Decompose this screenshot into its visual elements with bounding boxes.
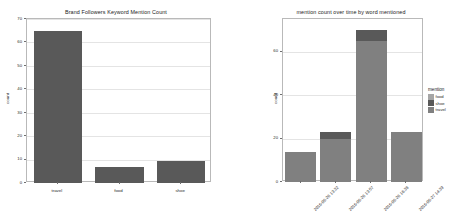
legend-entry-group: foodshoetravel xyxy=(428,94,446,113)
legend-entry[interactable]: food xyxy=(428,94,446,100)
x-axis-tick-mark xyxy=(300,181,301,183)
y-axis-tick-label: 30 xyxy=(10,110,22,115)
y-axis-tick-label: 40 xyxy=(10,86,22,91)
legend-entry-label: travel xyxy=(436,107,446,112)
y-axis-tick-label: 20 xyxy=(10,133,22,138)
bar-segment xyxy=(320,139,351,182)
y-axis-tick-label: 20 xyxy=(266,135,278,140)
gridline xyxy=(283,95,422,96)
chart-title: Brand Followers Keyword Mention Count xyxy=(16,9,216,15)
bar-segment xyxy=(320,132,351,139)
bar xyxy=(34,31,82,183)
y-axis-tick-label: 0 xyxy=(10,180,22,185)
y-axis-tick-label: 60 xyxy=(10,39,22,44)
bar-segment xyxy=(356,41,387,182)
legend-swatch-icon xyxy=(428,94,434,100)
bar xyxy=(95,167,143,183)
y-axis-tick-label: 60 xyxy=(266,48,278,53)
y-axis-tick-label: 0 xyxy=(266,179,278,184)
dashboard-root: Brand Followers Keyword Mention Count co… xyxy=(0,0,464,224)
y-axis-tick-label: 40 xyxy=(266,92,278,97)
gridline xyxy=(27,19,210,20)
plot-area xyxy=(282,18,423,181)
legend-entry[interactable]: travel xyxy=(428,107,446,113)
y-axis-tick-label: 70 xyxy=(10,16,22,21)
legend-entry-label: food xyxy=(436,94,444,99)
legend-swatch-icon xyxy=(428,107,434,113)
y-axis-tick-mark xyxy=(24,182,26,183)
bar xyxy=(157,161,205,183)
chart-panel-brand-followers: Brand Followers Keyword Mention Count co… xyxy=(0,0,226,224)
legend: mention foodshoetravel xyxy=(428,87,446,113)
y-axis-tick-mark xyxy=(280,181,282,182)
plot-area xyxy=(26,18,211,182)
x-axis-tick-label: shoe xyxy=(149,188,211,193)
legend-entry[interactable]: shoe xyxy=(428,100,446,106)
x-axis-tick-mark xyxy=(119,182,120,184)
legend-swatch-icon xyxy=(428,100,434,106)
bar-segment xyxy=(356,30,387,41)
x-axis-tick-mark xyxy=(370,181,371,183)
x-axis-tick-label: food xyxy=(88,188,150,193)
bar-segment xyxy=(391,132,422,182)
gridline xyxy=(283,52,422,53)
y-axis-tick-label: 50 xyxy=(10,63,22,68)
legend-entry-label: shoe xyxy=(436,101,445,106)
x-axis-tick-mark xyxy=(335,181,336,183)
x-axis-tick-label: travel xyxy=(26,188,88,193)
x-axis-tick-mark xyxy=(180,182,181,184)
y-axis-tick-label: 10 xyxy=(10,156,22,161)
y-axis-title: count xyxy=(5,93,10,104)
chart-title: mention count over time by word mentione… xyxy=(266,9,436,15)
bar-segment xyxy=(285,152,316,182)
legend-title: mention xyxy=(428,87,446,92)
x-axis-tick-mark xyxy=(57,182,58,184)
x-axis-tick-mark xyxy=(405,181,406,183)
